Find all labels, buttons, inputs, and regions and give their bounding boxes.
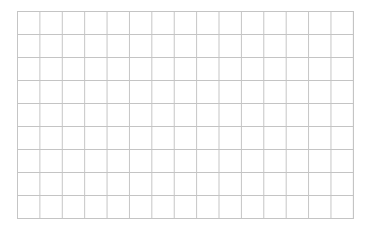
grid-paper — [17, 11, 354, 219]
